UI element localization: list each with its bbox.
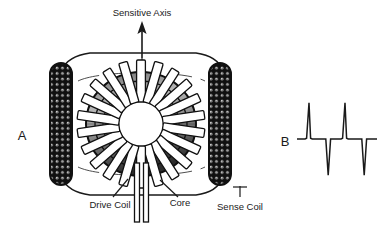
drive-coil-label: Drive Coil: [89, 199, 130, 210]
core-label: Core: [170, 197, 191, 208]
fluxgate-sensor-figure: A Sensitive Axis: [0, 0, 387, 229]
panel-letter-a: A: [18, 128, 27, 143]
figure-root: A Sensitive Axis: [0, 0, 387, 229]
sense-coil-label: Sense Coil: [217, 201, 263, 212]
sense-coil-left: [50, 63, 72, 185]
sensitive-axis-label: Sensitive Axis: [113, 7, 172, 18]
sense-coil-right: [209, 63, 231, 185]
panel-letter-b: B: [281, 134, 290, 149]
